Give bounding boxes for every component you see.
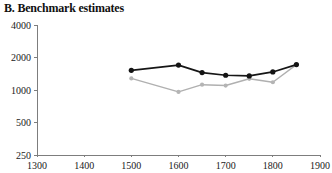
chart-plot-area: 250500100020004000 130014001500160017001… [0, 0, 332, 173]
data-point-benchmark-upper [129, 68, 134, 73]
y-tick-label: 4000 [11, 20, 31, 31]
data-point-benchmark-upper [270, 69, 275, 74]
x-tick-label: 1900 [310, 160, 330, 171]
y-tick-label: 1000 [11, 85, 31, 96]
data-point-benchmark-lower [224, 83, 228, 87]
x-tick-label: 1600 [169, 160, 189, 171]
data-point-benchmark-upper [294, 62, 299, 67]
x-tick-label: 1700 [216, 160, 236, 171]
data-point-benchmark-lower [271, 80, 275, 84]
data-point-benchmark-lower [129, 76, 133, 80]
series-lines [131, 65, 296, 92]
data-point-benchmark-lower [176, 90, 180, 94]
y-axis-tick-labels: 250500100020004000 [11, 20, 31, 161]
x-tick-label: 1800 [263, 160, 283, 171]
data-point-benchmark-upper [199, 70, 204, 75]
y-tick-label: 500 [16, 117, 31, 128]
y-tick-label: 250 [16, 150, 31, 161]
data-point-benchmark-lower [200, 83, 204, 87]
data-point-benchmark-upper [247, 73, 252, 78]
data-point-benchmark-upper [223, 73, 228, 78]
x-tick-label: 1400 [74, 160, 94, 171]
series-markers [129, 62, 299, 94]
x-tick-label: 1300 [27, 160, 47, 171]
x-axis-tick-labels: 1300140015001600170018001900 [27, 160, 330, 171]
series-line-benchmark-lower [131, 65, 296, 92]
chart-figure: B. Benchmark estimates 25050010002000400… [0, 0, 332, 173]
y-tick-label: 2000 [11, 52, 31, 63]
data-point-benchmark-upper [176, 63, 181, 68]
x-tick-label: 1500 [121, 160, 141, 171]
